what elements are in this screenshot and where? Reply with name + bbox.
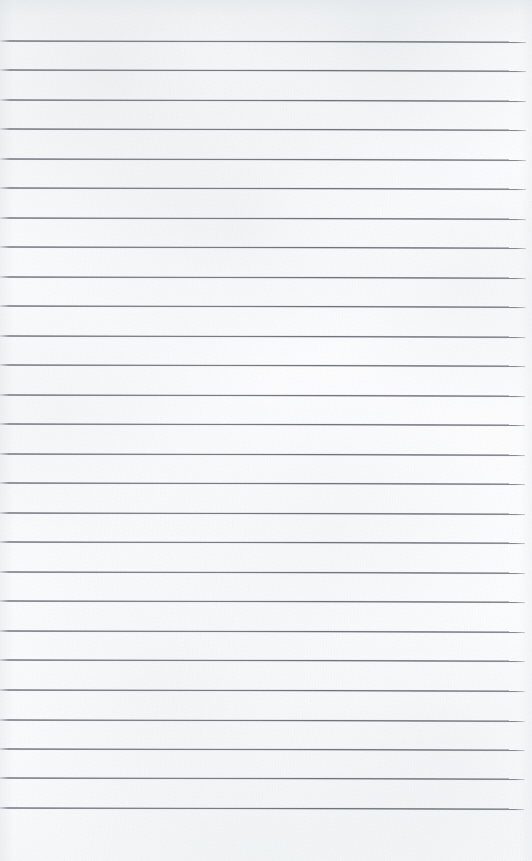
ruled-line xyxy=(0,689,524,692)
ruled-line xyxy=(0,748,524,751)
ruled-line xyxy=(0,659,525,662)
scanned-page xyxy=(0,0,532,861)
ruled-lines-group xyxy=(0,0,532,861)
ruled-line xyxy=(0,217,526,220)
ruled-line xyxy=(0,158,526,161)
ruled-line xyxy=(0,40,526,43)
ruled-line xyxy=(0,364,525,367)
ruled-line xyxy=(0,571,525,574)
ruled-line xyxy=(0,335,525,338)
ruled-line xyxy=(0,777,524,780)
ruled-line xyxy=(0,630,525,633)
ruled-line xyxy=(0,719,524,722)
ruled-line xyxy=(0,187,526,190)
ruled-line xyxy=(0,128,526,131)
ruled-line xyxy=(0,482,525,485)
ruled-line xyxy=(0,807,524,810)
ruled-line xyxy=(0,423,525,426)
ruled-line xyxy=(0,541,525,544)
ruled-line xyxy=(0,246,525,249)
ruled-line xyxy=(0,305,525,308)
ruled-line xyxy=(0,276,525,279)
ruled-line xyxy=(0,99,526,102)
ruled-line xyxy=(0,69,526,72)
ruled-line xyxy=(0,600,525,603)
ruled-line xyxy=(0,512,525,515)
ruled-line xyxy=(0,394,525,397)
ruled-line xyxy=(0,453,525,456)
